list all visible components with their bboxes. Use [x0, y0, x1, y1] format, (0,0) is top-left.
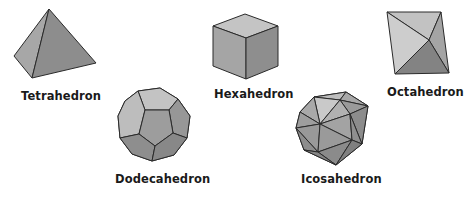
- tetrahedron-label: Tetrahedron: [21, 89, 101, 103]
- tetrahedron-shape: [10, 6, 100, 82]
- icosahedron-figure: [296, 92, 370, 168]
- octahedron-shape: [386, 10, 450, 76]
- octahedron-label: Octahedron: [387, 85, 464, 99]
- hexahedron-label: Hexahedron: [214, 87, 294, 101]
- icosahedron-label: Icosahedron: [301, 172, 382, 186]
- icosahedron-shape: [296, 92, 370, 168]
- tetrahedron-figure: [10, 6, 100, 82]
- octahedron-figure: [386, 10, 450, 76]
- dodecahedron-shape: [118, 86, 192, 162]
- dodecahedron-label: Dodecahedron: [115, 172, 210, 186]
- hexahedron-shape: [212, 13, 280, 81]
- hexahedron-figure: [212, 13, 280, 81]
- dodecahedron-figure: [118, 86, 192, 162]
